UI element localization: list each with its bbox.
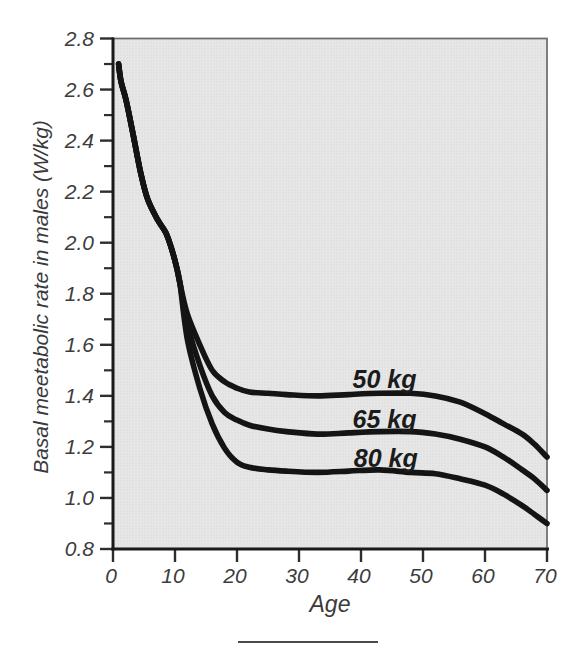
series-label-50-kg: 50 kg bbox=[353, 365, 417, 393]
x-tick-label: 70 bbox=[533, 564, 557, 587]
y-tick-label: 2.2 bbox=[64, 180, 95, 203]
x-tick-label: 50 bbox=[409, 564, 433, 587]
y-tick-label: 2.4 bbox=[64, 129, 94, 152]
y-tick-label: 2.6 bbox=[64, 78, 95, 101]
chart-canvas: 2.82.62.42.22.01.81.61.41.21.00.80102030… bbox=[0, 0, 581, 652]
x-tick-label: 10 bbox=[161, 564, 185, 587]
x-tick-label: 0 bbox=[105, 564, 117, 587]
y-tick-label: 1.8 bbox=[65, 282, 95, 305]
y-tick-label: 1.0 bbox=[65, 486, 95, 509]
x-tick-label: 40 bbox=[347, 564, 371, 587]
series-label-80-kg: 80 kg bbox=[354, 444, 418, 472]
x-tick-label: 30 bbox=[285, 564, 309, 587]
series-label-65-kg: 65 kg bbox=[353, 405, 417, 433]
y-tick-label: 0.8 bbox=[65, 537, 95, 560]
y-tick-label: 2.8 bbox=[64, 27, 95, 50]
x-axis-title: Age bbox=[308, 591, 351, 617]
y-tick-label: 1.2 bbox=[65, 435, 95, 458]
curve-labels: 50 kg65 kg80 kg bbox=[353, 365, 418, 472]
y-axis-title: Basal meetabolic rate in males (W/kg) bbox=[29, 120, 52, 474]
y-tick-label: 2.0 bbox=[64, 231, 95, 254]
x-tick-label: 60 bbox=[471, 564, 495, 587]
y-tick-label: 1.4 bbox=[65, 384, 94, 407]
y-tick-label: 1.6 bbox=[65, 333, 95, 356]
x-tick-label: 20 bbox=[222, 564, 247, 587]
figure-basal-metabolic-rate-chart: 2.82.62.42.22.01.81.61.41.21.00.80102030… bbox=[0, 0, 581, 652]
